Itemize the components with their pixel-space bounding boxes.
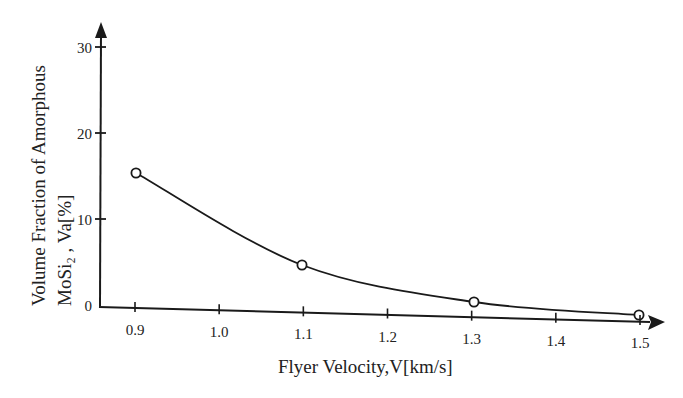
y-tick-label: 20	[77, 126, 92, 142]
x-tick-label: 1.0	[210, 324, 229, 340]
x-axis-arrow-icon	[648, 315, 665, 330]
data-points	[131, 168, 643, 319]
axes	[95, 22, 665, 330]
x-tick-label: 1.2	[378, 329, 397, 345]
chart: 0.91.01.11.21.31.41.5 0102030 Flyer Velo…	[0, 0, 683, 398]
x-tick-label: 1.3	[462, 331, 481, 347]
data-point-marker	[634, 310, 643, 319]
data-point-marker	[297, 260, 306, 269]
x-axis-line	[99, 307, 650, 322]
x-tick-label: 0.9	[126, 322, 145, 338]
curve-path	[136, 173, 639, 315]
x-tick-label: 1.1	[294, 326, 313, 342]
x-tick-label: 1.5	[631, 335, 650, 351]
x-tick-label: 1.4	[546, 333, 565, 349]
y-axis-arrow-icon	[95, 22, 107, 38]
data-point-marker	[131, 168, 140, 177]
y-axis-title-line1: Volume Fraction of Amorphous	[28, 65, 49, 306]
fitted-curve	[136, 173, 639, 315]
y-axis-line	[100, 32, 101, 306]
y-tick-label: 10	[77, 212, 92, 228]
x-axis-title: Flyer Velocity,V[km/s]	[278, 356, 453, 377]
y-axis-title-line2: MoSi₂ , Va[%]	[54, 195, 75, 306]
y-tick-label: 0	[85, 298, 93, 314]
data-point-marker	[469, 297, 478, 306]
y-tick-label: 30	[77, 40, 92, 56]
